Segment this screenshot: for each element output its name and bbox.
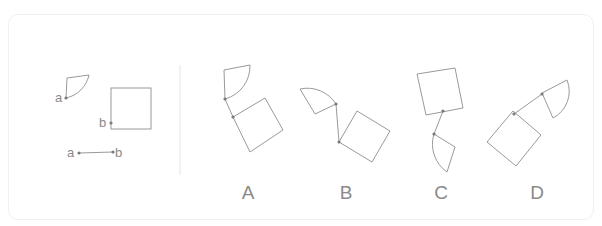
point-b-label: b [99,115,106,130]
option-c-segment [434,111,443,134]
option-c-label: C [434,182,448,203]
option-a-sector-icon [224,65,250,99]
puzzle-canvas: a b a b A B C [0,0,602,226]
option-d-label: D [530,182,544,203]
option-b-square-icon [339,111,390,162]
option-d-dot-b [512,112,515,115]
option-a-dot-b [231,115,234,118]
option-d[interactable]: D [487,80,569,203]
point-b-dot [109,121,112,124]
reference-figure: a b a b [55,75,151,160]
option-b-dot-b [337,140,340,143]
option-d-sector-icon [542,80,569,118]
option-b-dot-a [334,102,337,105]
option-c-square-icon [417,68,463,115]
reference-square-icon [111,88,151,129]
reference-segment [79,152,113,153]
option-c-sector-icon [432,134,455,172]
reference-sector-icon [66,75,89,98]
segment-start-label: a [67,145,75,160]
option-d-square-icon [487,111,541,166]
point-a-label: a [55,90,63,105]
option-a-dot-a [223,97,226,100]
option-c[interactable]: C [417,68,463,203]
segment-end-label: b [115,145,122,160]
option-b-sector-icon [300,88,336,114]
option-a-segment [225,99,233,117]
option-b-segment [336,104,339,142]
option-b[interactable]: B [300,88,390,203]
option-a[interactable]: A [223,65,283,203]
option-c-dot-a [432,132,435,135]
option-c-dot-b [441,109,444,112]
option-a-label: A [242,182,255,203]
option-a-square-icon [233,98,283,152]
segment-start-dot [77,151,80,154]
option-d-segment [514,94,542,114]
option-b-label: B [340,182,353,203]
option-d-dot-a [540,92,543,95]
point-a-dot [64,96,67,99]
